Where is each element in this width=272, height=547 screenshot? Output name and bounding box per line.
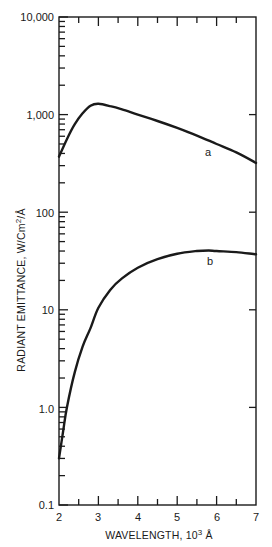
x-tick-label: 5 xyxy=(174,511,180,523)
plot-frame xyxy=(59,17,256,505)
y-axis-title: RADIANT EMITTANCE, W/Cm2/Å xyxy=(14,208,27,371)
x-axis-title: WAVELENGTH, 103 Å xyxy=(105,528,213,541)
series-label-b: b xyxy=(207,255,213,267)
y-tick-label: 100 xyxy=(36,207,54,219)
series-label-a: a xyxy=(205,146,212,158)
y-tick-label: 10,000 xyxy=(20,11,54,23)
y-tick-label: 1,000 xyxy=(26,109,54,121)
y-tick-label: 10 xyxy=(42,304,54,316)
curve-b xyxy=(59,251,256,459)
axis-ticks xyxy=(59,17,256,505)
x-tick-label: 4 xyxy=(135,511,141,523)
curve-a xyxy=(59,104,256,163)
x-tick-label: 7 xyxy=(253,511,259,523)
y-tick-label: 0.1 xyxy=(39,499,54,511)
x-tick-label: 2 xyxy=(56,511,62,523)
y-tick-label: 1.0 xyxy=(39,403,54,415)
x-tick-label: 6 xyxy=(214,511,220,523)
emittance-chart: 10,000 1,000 100 10 1.0 0.1 2 3 4 5 6 7 … xyxy=(0,0,272,547)
x-tick-label: 3 xyxy=(95,511,101,523)
data-curves xyxy=(59,104,256,459)
x-tick-labels: 2 3 4 5 6 7 xyxy=(56,511,259,523)
